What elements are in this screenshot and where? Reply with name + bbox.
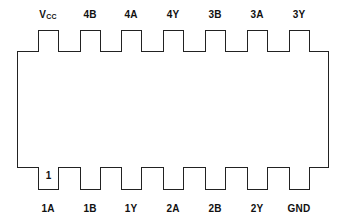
pin-label-2b: 2B <box>195 203 235 214</box>
top-pin-6 <box>247 30 268 52</box>
top-pin-4 <box>163 30 184 52</box>
pin-label-3a: 3A <box>237 9 277 20</box>
ic-package-body <box>17 51 329 168</box>
top-pin-7 <box>289 30 310 52</box>
pin-1-marker: 1 <box>39 170 58 181</box>
pin-label-3b: 3B <box>195 9 235 20</box>
pin-label-4b: 4B <box>70 9 110 20</box>
pin-label-1a: 1A <box>28 203 68 214</box>
bottom-pin-4 <box>163 167 184 190</box>
bottom-pin-5 <box>205 167 226 190</box>
pin-label-vcc: VCC <box>28 9 68 20</box>
top-pin-1 <box>38 30 59 52</box>
bottom-pin-6 <box>247 167 268 190</box>
bottom-pin-7 <box>289 167 310 190</box>
pin-label-1b: 1B <box>70 203 110 214</box>
bottom-pin-3 <box>121 167 142 190</box>
top-pin-2 <box>80 30 101 52</box>
pin-label-2a: 2A <box>153 203 193 214</box>
pin-label-1y: 1Y <box>111 203 151 214</box>
bottom-pin-2 <box>80 167 101 190</box>
pin-label-4a: 4A <box>111 9 151 20</box>
pin-label-2y: 2Y <box>237 203 277 214</box>
pin-label-gnd: GND <box>279 203 319 214</box>
pin-label-4y: 4Y <box>153 9 193 20</box>
pin-label-3y: 3Y <box>279 9 319 20</box>
bottom-pin-1: 1 <box>38 167 59 190</box>
top-pin-5 <box>205 30 226 52</box>
pin-label-subscript: CC <box>46 13 57 20</box>
top-pin-3 <box>121 30 142 52</box>
